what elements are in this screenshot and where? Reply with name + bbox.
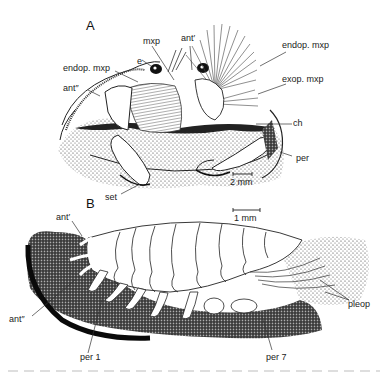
label-ant-prime-b: ant′ [56,212,70,222]
panel-a-drawing [58,24,284,189]
label-pereopod-1: per 1 [80,352,101,362]
scale-label-b: 1 mm [234,213,257,223]
label-eye: e [137,56,142,66]
panel-b-drawing [27,222,369,338]
label-pereopod-a: per [296,153,309,163]
label-ant-prime-a: ant′ [181,33,195,43]
scale-label-a: 2 mm [230,177,253,187]
anatomical-figure: A mxp ant′ e endop. mxp ant″ endop. mxp … [0,0,385,373]
label-pleopod: pleop [348,299,370,309]
scale-bar-b [233,208,260,212]
label-endop-mxp-right: endop. mxp [282,40,329,50]
illustration-drawings [0,0,385,373]
label-chela: ch [293,118,303,128]
label-exop-mxp: exop. mxp [282,74,324,84]
panel-b-letter: B [86,197,95,211]
panel-a-letter: A [86,19,95,33]
label-setae: set [105,192,117,202]
label-ant-double-prime-b: ant″ [9,314,25,324]
label-mxp: mxp [143,36,160,46]
label-pereopod-7: per 7 [266,352,287,362]
label-endop-mxp-left: endop. mxp [63,63,110,73]
label-ant-double-prime-a: ant″ [63,83,79,93]
